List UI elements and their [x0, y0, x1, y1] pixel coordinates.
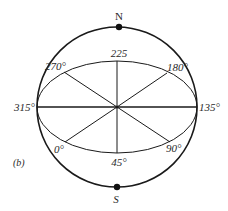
label-180: 180° — [167, 61, 189, 73]
spoke-90 — [117, 107, 170, 142]
label-0: 0° — [54, 143, 65, 155]
label-135: 135° — [199, 101, 221, 113]
label-270: 270° — [45, 60, 67, 72]
center-point — [115, 105, 118, 108]
label-315: 315° — [13, 101, 36, 113]
spoke-270 — [64, 72, 117, 107]
south-pole-dot — [114, 184, 120, 190]
label-45: 45° — [111, 156, 127, 168]
stereonet-diagram: N S 225 270° 180° 315° 135° 0° 45° 90° (… — [0, 0, 228, 211]
spoke-0 — [65, 107, 117, 142]
south-label: S — [113, 193, 119, 205]
spoke-180 — [117, 73, 167, 107]
north-pole-dot — [116, 24, 122, 30]
label-225: 225 — [111, 47, 128, 59]
label-90: 90° — [166, 142, 182, 154]
north-label: N — [115, 10, 123, 22]
panel-label: (b) — [13, 157, 25, 169]
